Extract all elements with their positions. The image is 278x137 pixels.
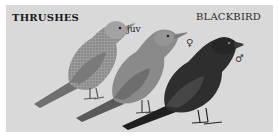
- female-symbol-icon: ♀: [186, 37, 193, 48]
- title-thrushes: THRUSHES: [12, 12, 79, 23]
- title-blackbird: BLACKBIRD: [196, 11, 261, 22]
- label-juvenile: juv: [127, 24, 141, 34]
- male-symbol-icon: ♂: [235, 53, 244, 64]
